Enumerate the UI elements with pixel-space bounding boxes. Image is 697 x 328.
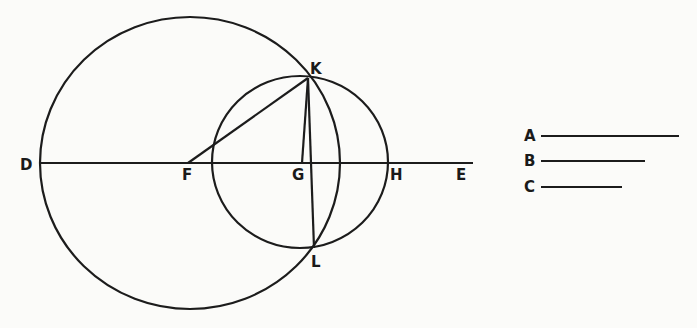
legend-label-C: C <box>524 178 535 196</box>
label-D: D <box>20 156 32 174</box>
line-GK <box>302 78 308 163</box>
label-K: K <box>310 60 323 78</box>
label-G: G <box>292 166 304 184</box>
label-H: H <box>390 166 403 184</box>
label-L: L <box>311 253 321 271</box>
line-FK <box>188 78 308 163</box>
legend: A B C <box>524 127 679 196</box>
geometry-diagram: D F G H E K L A B C <box>0 0 697 328</box>
label-F: F <box>182 166 192 184</box>
legend-label-A: A <box>524 127 536 145</box>
legend-label-B: B <box>524 152 535 170</box>
label-E: E <box>456 166 466 184</box>
